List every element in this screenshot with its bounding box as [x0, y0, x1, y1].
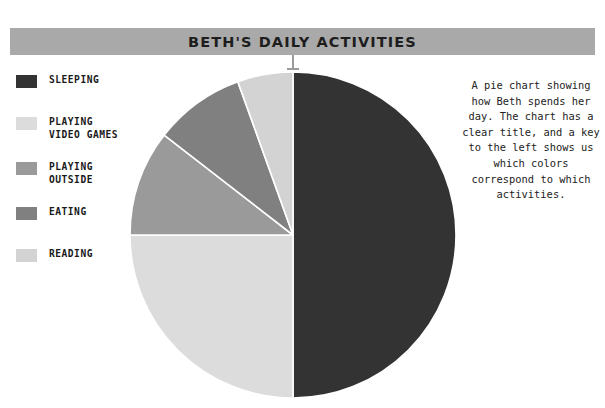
chart-title-bar: BETH'S DAILY ACTIVITIES	[10, 28, 595, 55]
chart-description: A pie chart showing how Beth spends her …	[462, 78, 600, 203]
legend-item-label: PLAYING VIDEO GAMES	[49, 116, 118, 141]
legend-item-label: EATING	[49, 206, 87, 219]
legend-swatch-icon	[16, 249, 37, 262]
legend-item-label: READING	[49, 248, 93, 261]
legend-swatch-icon	[16, 75, 37, 88]
legend-swatch-icon	[16, 117, 37, 130]
legend-swatch-icon	[16, 207, 37, 220]
legend-swatch-icon	[16, 162, 37, 175]
pie-slice-playing-video-games[interactable]	[130, 235, 293, 398]
pie-chart-svg	[128, 70, 458, 400]
pie-slice-sleeping[interactable]	[293, 72, 456, 398]
pie-chart	[128, 70, 458, 400]
legend-item-label: SLEEPING	[49, 74, 99, 87]
legend-item-label: PLAYING OUTSIDE	[49, 161, 93, 186]
page-title: BETH'S DAILY ACTIVITIES	[188, 34, 417, 50]
